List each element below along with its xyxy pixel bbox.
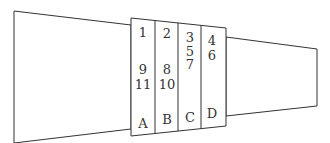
column-b-label: B (162, 112, 172, 127)
column-b-number-2: 8 (163, 62, 171, 77)
column-a-number-2: 9 (139, 62, 147, 77)
left-wing (14, 11, 131, 143)
column-b-number-1: 2 (163, 26, 171, 41)
column-c-number-3: 7 (186, 57, 194, 72)
folded-strip-diagram: 1 9 11 A 2 8 10 B 3 5 7 C 4 6 D (0, 0, 330, 143)
right-wing (226, 37, 317, 116)
column-d-number-2: 6 (208, 48, 216, 63)
column-a-number-1: 1 (139, 25, 147, 40)
column-d-label: D (207, 106, 217, 121)
column-c-number-1: 3 (186, 30, 194, 45)
column-b-number-3: 10 (159, 77, 176, 92)
column-a-number-3: 11 (135, 77, 152, 92)
column-a-label: A (137, 116, 148, 131)
column-d-number-1: 4 (208, 33, 216, 48)
column-c-label: C (185, 110, 195, 125)
